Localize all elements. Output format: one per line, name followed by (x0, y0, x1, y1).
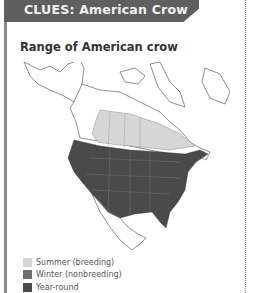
summer-swatch-icon (23, 258, 32, 267)
dotted-divider (245, 0, 246, 293)
year-round-swatch-icon (23, 283, 32, 292)
winter-swatch-icon (23, 270, 32, 279)
legend-label: Summer (breeding) (36, 258, 114, 267)
range-map (20, 62, 230, 252)
left-border-rule (4, 0, 7, 293)
legend-item-summer: Summer (breeding) (23, 256, 122, 268)
map-legend: Summer (breeding) Winter (nonbreeding) Y… (23, 256, 122, 293)
legend-label: Winter (nonbreeding) (36, 270, 122, 279)
clues-header-label: CLUES: American Crow (24, 2, 188, 17)
legend-label: Year-round (36, 283, 79, 292)
clues-header-bar: CLUES: American Crow (4, 0, 199, 22)
legend-item-winter: Winter (nonbreeding) (23, 269, 122, 281)
figure-title: Range of American crow (20, 40, 178, 54)
legend-item-year-round: Year-round (23, 281, 122, 293)
